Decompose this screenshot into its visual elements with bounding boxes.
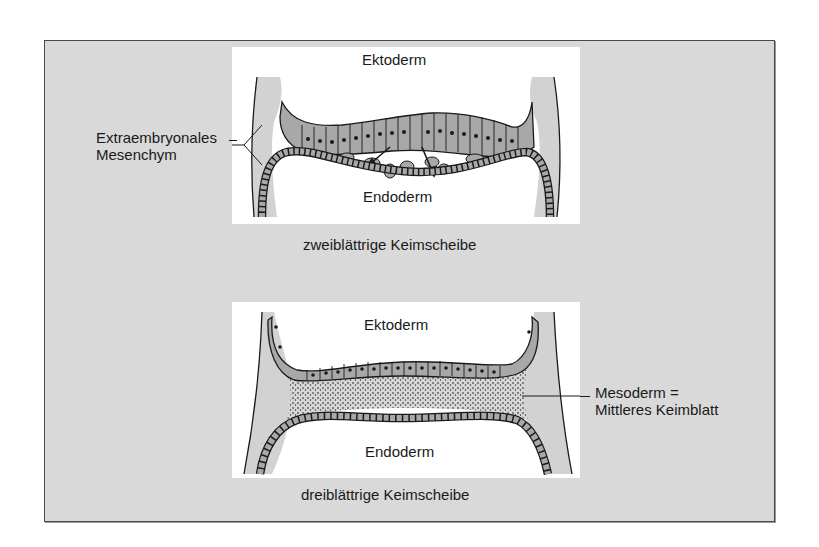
extraembryonic-mesenchyme-label-line2: Mesenchym xyxy=(96,146,177,163)
mesoderm-label-line1: Mesoderm = xyxy=(595,384,679,401)
trilaminar-disc-diagram: Ektoderm Endoderm xyxy=(232,302,580,478)
ectoderm-label: Ektoderm xyxy=(364,316,428,333)
ectoderm-label: Ektoderm xyxy=(362,51,426,68)
endoderm-label: Endoderm xyxy=(365,443,434,460)
trilaminar-disc-caption: dreiblättrige Keimscheibe xyxy=(301,486,469,503)
mesoderm-label-line2: Mittleres Keimblatt xyxy=(595,401,718,418)
bilaminar-disc-diagram: Ektoderm Endoderm xyxy=(232,47,580,224)
bilaminar-disc-caption: zweiblättrige Keimscheibe xyxy=(303,236,476,253)
extraembryonic-mesenchyme-label-line1: Extraembryonales xyxy=(96,129,217,146)
extraembryonic-mesenchyme-leader-line xyxy=(229,140,237,141)
mesoderm-leader-line xyxy=(580,396,590,397)
endoderm-label: Endoderm xyxy=(363,188,432,205)
